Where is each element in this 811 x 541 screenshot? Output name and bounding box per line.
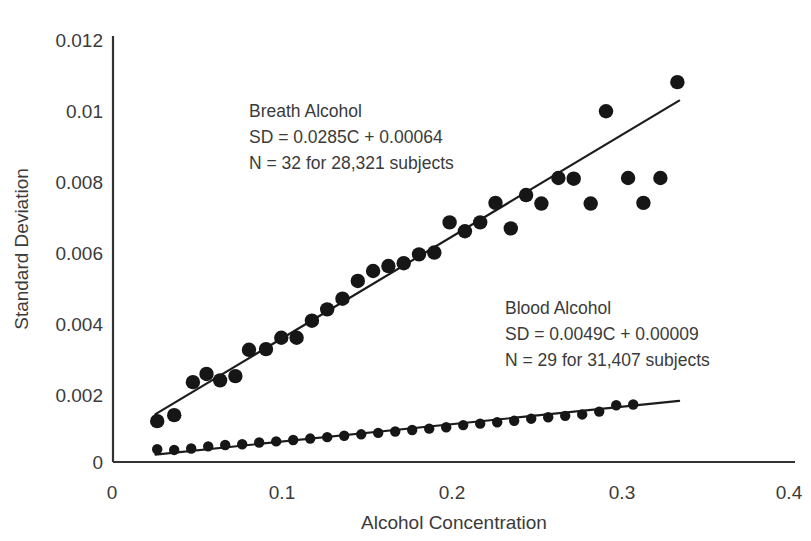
data-point (237, 439, 247, 449)
data-point (492, 417, 502, 427)
data-point (150, 414, 164, 428)
data-point (458, 420, 468, 430)
data-point (289, 331, 303, 345)
data-point (567, 172, 581, 186)
series-blood-alcohol (152, 399, 679, 455)
data-point (271, 436, 281, 446)
y-tick-label-0.002: 0.002 (55, 385, 103, 406)
data-point (274, 331, 288, 345)
x-axis-title: Alcohol Concentration (361, 512, 547, 533)
data-point (339, 431, 349, 441)
data-point (320, 302, 334, 316)
data-point (351, 274, 365, 288)
breath-annotation-n: N = 32 for 28,321 subjects (249, 153, 454, 173)
data-point (504, 221, 518, 235)
data-point (381, 259, 395, 273)
data-point (628, 399, 638, 409)
data-point (611, 400, 621, 410)
x-tick-label-0.1: 0.1 (269, 482, 295, 503)
y-tick-label-0.004: 0.004 (55, 314, 103, 335)
data-point (220, 440, 230, 450)
data-point (621, 171, 635, 185)
data-point (441, 422, 451, 432)
y-tick-label-0.01: 0.01 (66, 101, 103, 122)
data-point (288, 435, 298, 445)
data-point (526, 413, 536, 423)
data-point (670, 75, 684, 89)
data-point (653, 171, 667, 185)
data-point (213, 373, 227, 387)
data-point (335, 292, 349, 306)
x-tick-label-0.2: 0.2 (439, 482, 465, 503)
data-point (152, 444, 162, 454)
data-point (186, 443, 196, 453)
data-point (584, 196, 598, 210)
data-point (397, 256, 411, 270)
y-tick-label-0: 0 (92, 452, 103, 473)
y-axis-title: Standard Deviation (11, 168, 32, 330)
data-point (169, 445, 179, 455)
data-point (366, 264, 380, 278)
y-tick-label-0.012: 0.012 (55, 30, 103, 51)
data-point (412, 247, 426, 261)
data-point (551, 171, 565, 185)
data-point (254, 437, 264, 447)
x-tick-label-0.4: 0.4 (776, 482, 803, 503)
data-point (390, 426, 400, 436)
y-tick-label-0.008: 0.008 (55, 172, 103, 193)
data-point (259, 342, 273, 356)
data-point (373, 428, 383, 438)
data-point (199, 367, 213, 381)
breath-annotation-equation: SD = 0.0285C + 0.00064 (249, 127, 443, 147)
data-point (475, 418, 485, 428)
data-point (543, 412, 553, 422)
x-tick-label-0: 0 (107, 482, 118, 503)
data-point (458, 224, 472, 238)
data-point (186, 375, 200, 389)
data-point (442, 215, 456, 229)
data-point (560, 411, 570, 421)
data-point (407, 425, 417, 435)
data-point (599, 104, 613, 118)
data-point (242, 343, 256, 357)
data-point (356, 429, 366, 439)
data-point (636, 196, 650, 210)
data-point (534, 196, 548, 210)
data-point (305, 314, 319, 328)
data-point (322, 432, 332, 442)
blood-annotation-equation: SD = 0.0049C + 0.00009 (505, 324, 699, 344)
data-point (577, 409, 587, 419)
scatter-plot: 0.012 0.01 0.008 0.006 0.004 0.002 0 0 0… (0, 0, 811, 541)
blood-annotation-n: N = 29 for 31,407 subjects (505, 350, 710, 370)
x-tick-label-0.3: 0.3 (609, 482, 635, 503)
data-point (167, 408, 181, 422)
data-point (509, 416, 519, 426)
data-point (519, 188, 533, 202)
data-point (424, 423, 434, 433)
chart-container: 0.012 0.01 0.008 0.006 0.004 0.002 0 0 0… (0, 0, 811, 541)
blood-annotation-title: Blood Alcohol (505, 298, 611, 318)
data-point (488, 196, 502, 210)
data-point (305, 433, 315, 443)
data-point (228, 369, 242, 383)
data-point (203, 441, 213, 451)
data-point (594, 406, 604, 416)
breath-annotation-title: Breath Alcohol (249, 101, 362, 121)
data-point (427, 245, 441, 259)
y-tick-label-0.006: 0.006 (55, 243, 103, 264)
data-point (473, 215, 487, 229)
